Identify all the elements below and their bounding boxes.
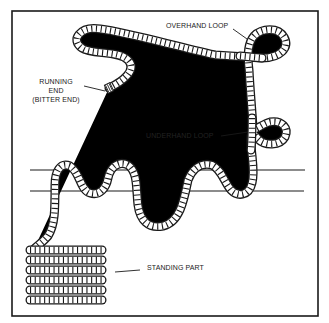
label-running-end: RUNNING END (BITTER END) bbox=[32, 78, 105, 104]
rope-parts-diagram: OVERHAND LOOP RUNNING END (BITTER END) U… bbox=[0, 0, 329, 323]
label-standing-part: STANDING PART bbox=[115, 264, 205, 272]
overhand-loop-text: OVERHAND LOOP bbox=[166, 22, 229, 29]
label-overhand-loop: OVERHAND LOOP bbox=[166, 22, 247, 39]
rope-coil-icon bbox=[30, 250, 102, 300]
running-end-text-3: (BITTER END) bbox=[32, 96, 79, 104]
underhand-loop-text: UNDERHAND LOOP bbox=[146, 132, 214, 139]
standing-part-text: STANDING PART bbox=[147, 264, 205, 271]
running-end-text-2: END bbox=[48, 87, 63, 94]
running-end-text-1: RUNNING bbox=[39, 78, 72, 85]
